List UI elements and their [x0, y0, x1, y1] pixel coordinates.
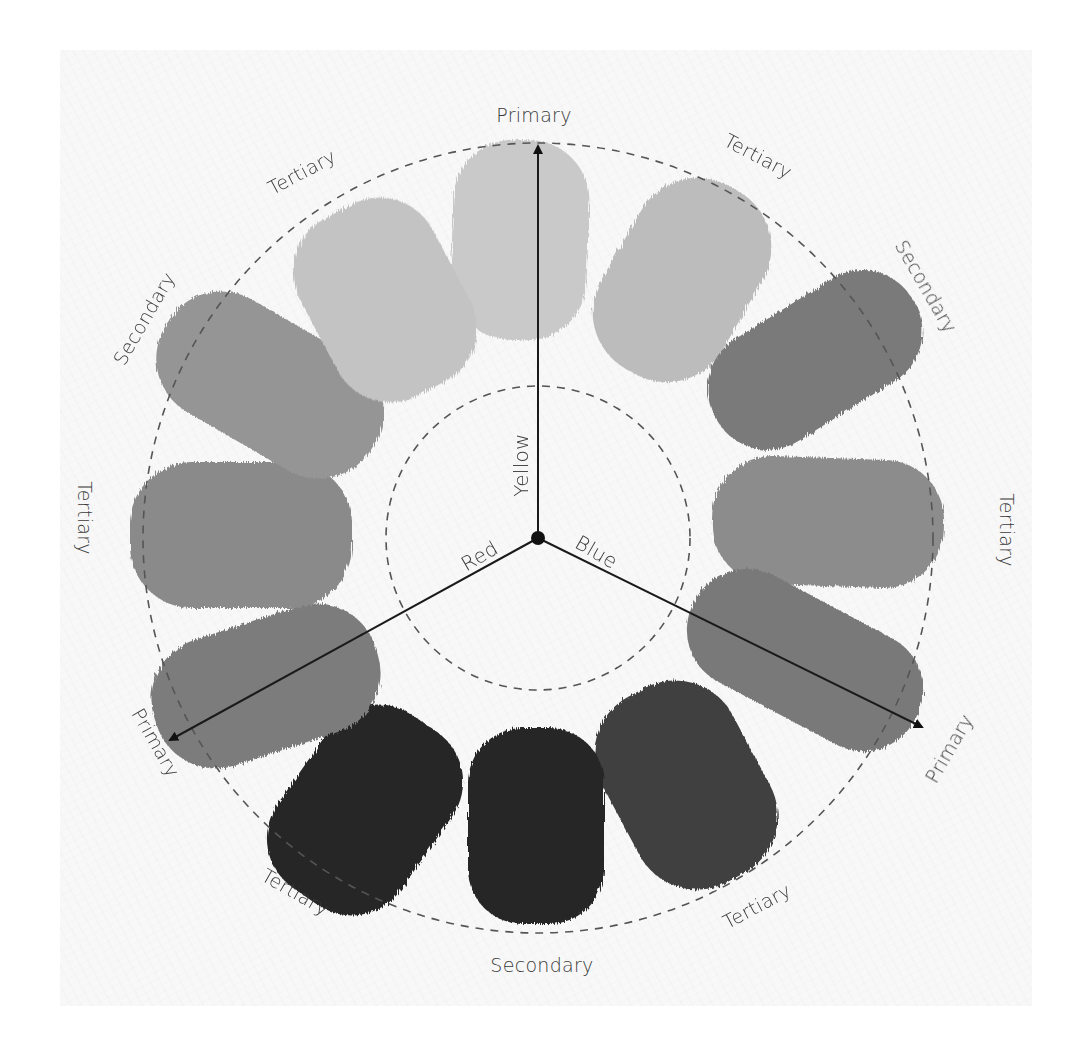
ring-label-top-primary: Primary	[496, 104, 572, 126]
ring-label-bottom-right-tertiary: Tertiary	[719, 879, 794, 933]
center-dot	[531, 531, 545, 545]
ring-label-right-tertiary: Tertiary	[996, 493, 1018, 567]
ring-label-top-left-tertiary: Tertiary	[264, 145, 339, 199]
ring-label-bottom-secondary: Secondary	[490, 954, 593, 976]
ring-label-lower-right-primary: Primary	[921, 710, 978, 786]
ring-label-top-right-tertiary: Tertiary	[721, 129, 796, 183]
axis-label-yellow: Yellow	[509, 433, 533, 496]
swatch-bottom-secondary	[468, 728, 604, 924]
ring-label-left-tertiary: Tertiary	[74, 481, 96, 555]
color-wheel-diagram: Yellow Red Blue Primary Tertiary Seconda…	[0, 0, 1088, 1056]
swatch-left-tertiary	[130, 462, 352, 608]
